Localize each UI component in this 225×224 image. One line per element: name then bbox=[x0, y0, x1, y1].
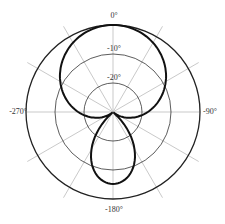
polar-plot: 0° -90° -180° -270° -10° -20° bbox=[0, 0, 225, 224]
grid-spoke bbox=[64, 112, 114, 198]
grid-spoke bbox=[64, 26, 114, 112]
grid-spoke bbox=[113, 112, 163, 198]
radial-label-minus10: -10° bbox=[107, 44, 121, 53]
grid-spoke bbox=[113, 26, 163, 112]
angle-label-90: -90° bbox=[203, 107, 217, 116]
angle-label-180: -180° bbox=[105, 205, 123, 214]
angle-label-270: -270° bbox=[9, 107, 27, 116]
radial-label-minus20: -20° bbox=[107, 73, 121, 82]
angle-label-0: 0° bbox=[110, 11, 117, 20]
grid-spoke bbox=[113, 112, 199, 162]
grid-spoke bbox=[27, 112, 113, 162]
